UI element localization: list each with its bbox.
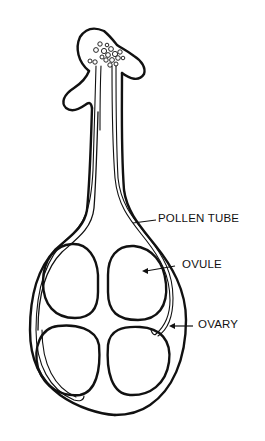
style-left-inner [38, 112, 98, 330]
ovule-arrowhead [142, 268, 148, 274]
label-ovule: OVULE [182, 258, 222, 270]
ovary-arrowhead [169, 323, 175, 329]
stigma [63, 71, 92, 110]
label-pollen-tube: POLLEN TUBE [158, 212, 239, 224]
style-right-wall [115, 73, 186, 415]
ovule-bottom-right [108, 327, 170, 395]
ovule-top-left [43, 244, 98, 318]
stigma-top [78, 29, 145, 79]
pollen-tubes [36, 66, 173, 401]
label-ovary: OVARY [198, 318, 238, 330]
